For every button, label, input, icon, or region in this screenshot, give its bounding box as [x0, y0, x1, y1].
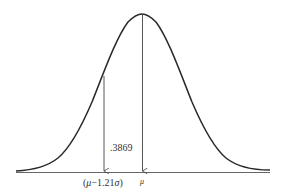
area-value-label: .3869 [110, 142, 133, 153]
bell-curve [16, 14, 270, 171]
chart-canvas [0, 0, 283, 196]
mean-label: μ [140, 177, 144, 186]
normal-distribution-figure: .3869 (μ−1.21σ) μ [0, 0, 283, 196]
lower-bound-label: (μ−1.21σ) [83, 177, 123, 188]
z-offset: −1.21 [91, 177, 114, 188]
paren-close: ) [119, 177, 122, 188]
